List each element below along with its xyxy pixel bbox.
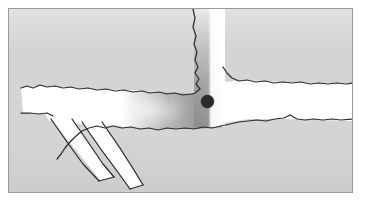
goal-tick (164, 97, 173, 104)
occupancy-map-canvas[interactable] (9, 9, 352, 192)
page-title: Occupancy grid map with robot pose (0, 21, 1, 22)
map-viewport: Occupancy grid map with robot pose (0, 0, 365, 205)
robot-pose-marker[interactable] (201, 95, 214, 108)
figure-frame: Robot pose Unknown space Free space Dete… (8, 8, 353, 193)
map-hotspot[interactable] (9, 9, 352, 192)
